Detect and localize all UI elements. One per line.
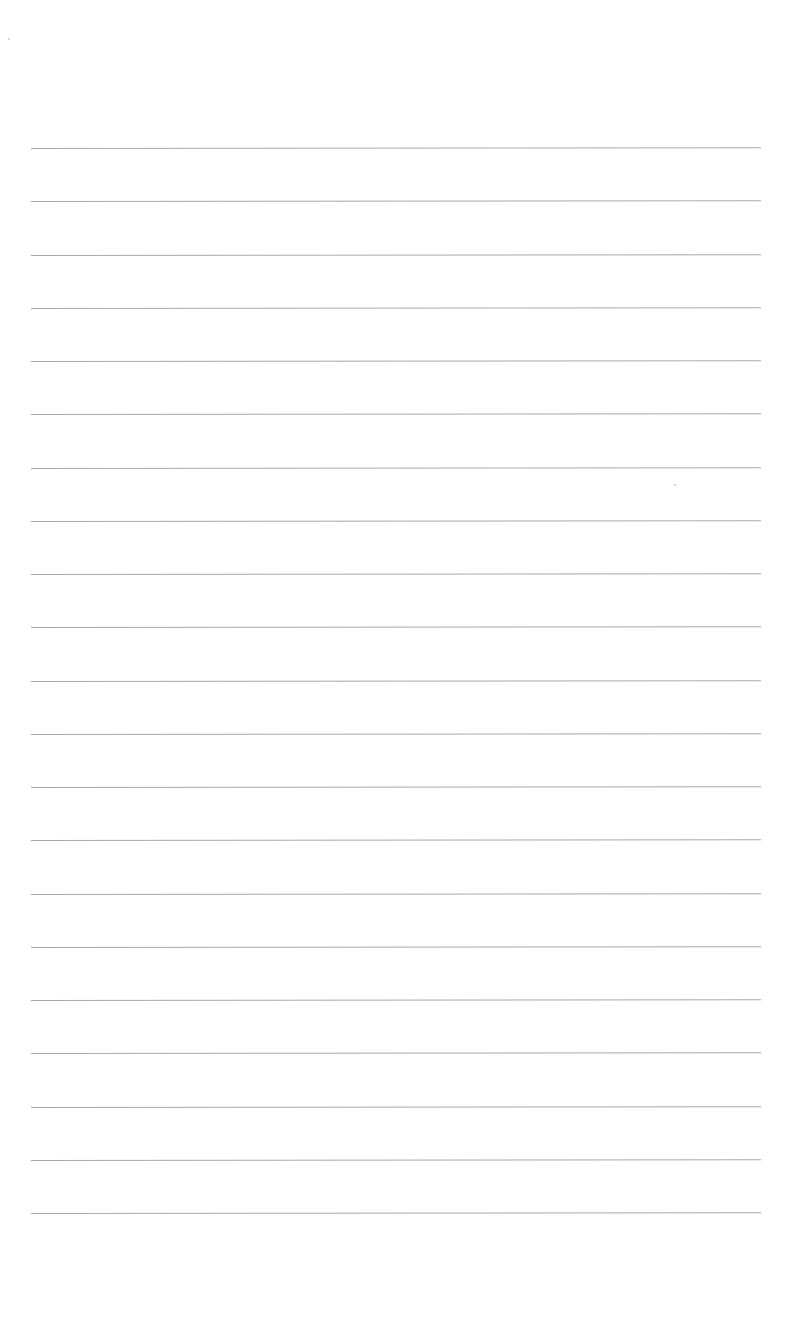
ruled-line xyxy=(31,946,761,948)
ruled-line xyxy=(31,201,761,203)
ruled-line xyxy=(31,467,761,469)
ruled-line xyxy=(31,254,761,256)
ruled-line xyxy=(31,1106,761,1108)
ruled-line xyxy=(31,147,761,149)
ruled-line xyxy=(31,786,761,788)
ruled-line xyxy=(31,840,761,842)
ruled-line xyxy=(31,573,761,575)
ruled-line xyxy=(31,1053,761,1055)
paper-speck xyxy=(674,484,676,486)
ruled-line xyxy=(31,360,761,362)
ruled-line xyxy=(31,733,761,735)
ruled-line xyxy=(31,414,761,416)
ruled-line xyxy=(31,1159,761,1161)
ruled-line xyxy=(31,680,761,682)
paper-speck xyxy=(8,38,10,40)
lined-paper-page xyxy=(0,0,802,1322)
ruled-line xyxy=(31,999,761,1001)
ruled-line xyxy=(31,1212,761,1214)
ruled-line xyxy=(31,627,761,629)
ruled-line xyxy=(31,520,761,522)
ruled-line xyxy=(31,307,761,309)
ruled-line xyxy=(31,893,761,895)
